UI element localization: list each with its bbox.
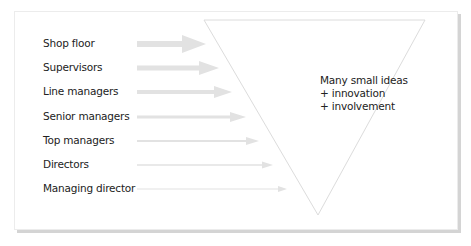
level-label: Line managers [43, 85, 118, 97]
arrow-icon [137, 162, 273, 169]
caption-line-ideas: Many small ideas [320, 74, 408, 87]
arrow-icon [137, 112, 246, 122]
level-label: Supervisors [43, 61, 102, 73]
level-label: Shop floor [43, 37, 95, 49]
arrow-icon [137, 61, 219, 75]
triangle-caption: Many small ideas + innovation + involvem… [320, 74, 408, 113]
level-label: Directors [43, 158, 89, 170]
level-label: Top managers [43, 134, 114, 146]
arrow-icon [137, 186, 287, 192]
caption-line-innovation: + innovation [320, 87, 408, 100]
level-label: Senior managers [43, 110, 129, 122]
arrow-icon [137, 86, 232, 98]
arrow-icon [137, 137, 259, 145]
arrows-group [137, 35, 287, 192]
level-label: Managing director [43, 182, 135, 194]
arrow-icon [137, 35, 206, 53]
caption-line-involvement: + involvement [320, 100, 408, 113]
